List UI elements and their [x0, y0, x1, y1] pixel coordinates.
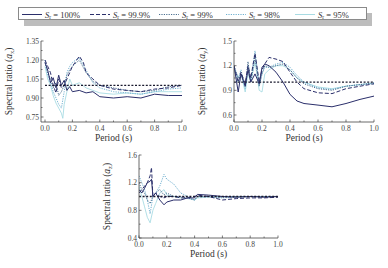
x-tick-label: 1.0: [273, 240, 283, 249]
x-tick-label: 0.4: [190, 240, 200, 249]
y-tick-label: 1.6: [128, 151, 138, 160]
y-axis-label: Spectral ratio (az): [102, 163, 113, 230]
y-tick-label: 1.2: [128, 178, 138, 187]
plot-lines: [139, 168, 278, 223]
x-tick-label: 0.2: [162, 240, 172, 249]
series-line: [139, 179, 278, 205]
axes: 0.00.20.40.60.81.00.40.81.21.6: [128, 151, 283, 249]
series-line: [139, 186, 278, 223]
x-tick-label: 0.6: [218, 240, 228, 249]
y-tick-label: 0.8: [128, 206, 138, 215]
y-tick-label: 0.4: [128, 234, 138, 243]
x-tick-label: 0.8: [246, 240, 256, 249]
chart-az-spectral-ratio: 0.00.20.40.60.81.00.40.81.21.6Period (s)…: [0, 0, 388, 268]
x-axis-label: Period (s): [190, 249, 227, 260]
